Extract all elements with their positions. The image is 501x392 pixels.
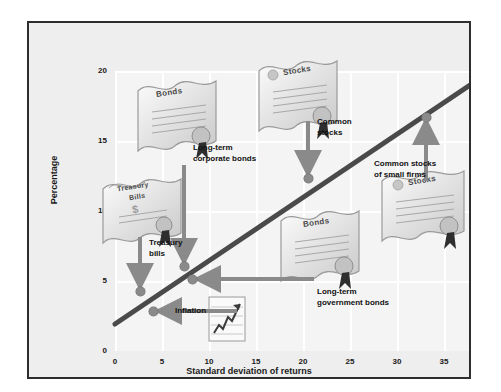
annotation-government-bonds-line1: Long-term bbox=[317, 287, 357, 297]
data-point-long-term-corporate-bonds[interactable] bbox=[180, 262, 189, 271]
x-tick-25: 25 bbox=[338, 357, 362, 366]
y-tick-15: 15 bbox=[85, 136, 107, 145]
data-point-common-stocks[interactable] bbox=[304, 174, 313, 183]
x-tick-10: 10 bbox=[197, 357, 221, 366]
annotation-small-firms-line1: Common stocks bbox=[374, 159, 436, 169]
chart-figure: 20 15 10 5 0 0 5 10 15 20 25 30 35 40 Pe… bbox=[27, 21, 471, 379]
annotation-long-term-corporate-bonds-line1: Long-term bbox=[193, 143, 233, 153]
annotation-government-bonds-line2: government bonds bbox=[317, 298, 389, 308]
x-tick-5: 5 bbox=[150, 357, 174, 366]
y-tick-5: 5 bbox=[85, 276, 107, 285]
annotation-common-stocks-line1: Common bbox=[317, 117, 352, 127]
y-tick-20: 20 bbox=[85, 66, 107, 75]
x-tick-0: 0 bbox=[103, 357, 127, 366]
x-tick-15: 15 bbox=[244, 357, 268, 366]
bonds-certificate-mid: Bonds bbox=[273, 199, 369, 295]
y-tick-0: 0 bbox=[85, 346, 107, 355]
annotation-common-stocks-line2: stocks bbox=[317, 128, 342, 138]
annotation-long-term-corporate-bonds-line2: corporate bonds bbox=[193, 154, 256, 164]
inflation-trend-icon bbox=[207, 295, 249, 349]
data-point-long-term-government-bonds[interactable] bbox=[188, 275, 197, 284]
data-point-common-stocks-small-firms[interactable] bbox=[422, 113, 431, 122]
data-point-inflation[interactable] bbox=[149, 307, 158, 316]
annotation-treasury-bills-line2: bills bbox=[149, 249, 165, 259]
annotation-small-firms-line2: of small firms bbox=[374, 170, 426, 180]
data-point-treasury-bills[interactable] bbox=[136, 287, 145, 296]
x-tick-20: 20 bbox=[291, 357, 315, 366]
y-axis-label: Percentage bbox=[49, 135, 59, 225]
x-axis-label: Standard deviation of returns bbox=[29, 366, 469, 376]
x-tick-30: 30 bbox=[385, 357, 409, 366]
annotation-inflation: Inflation bbox=[175, 306, 206, 316]
x-tick-35: 35 bbox=[432, 357, 456, 366]
annotation-treasury-bills-line1: Treasury bbox=[149, 238, 182, 248]
